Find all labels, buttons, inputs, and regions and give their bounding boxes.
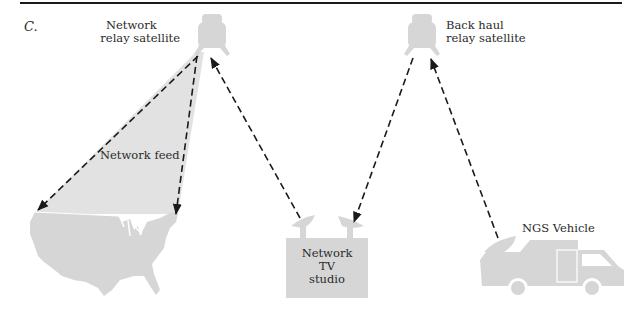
network-relay-satellite-icon [194, 14, 230, 56]
panel-label: C. [24, 20, 38, 33]
link-vehicle-to-backhaul-satellite [431, 59, 498, 238]
backhaul-relay-satellite-icon [404, 14, 440, 56]
us-map-icon [30, 212, 178, 296]
backhaul-relay-satellite-label-line2: relay satellite [446, 32, 526, 45]
ngs-vehicle-icon [480, 236, 624, 298]
link-backhaul-satellite-to-studio [354, 58, 413, 222]
backhaul-relay-satellite-label: Back haul relay satellite [446, 19, 526, 45]
network-relay-satellite-label: Network relay satellite [100, 19, 180, 45]
studio-label-line3: studio [286, 273, 368, 286]
network-relay-satellite-label-line2: relay satellite [100, 32, 180, 45]
diagram: C. Network relay satellite Back haul rel… [0, 0, 642, 312]
network-feed-label: Network feed [100, 149, 180, 162]
network-tv-studio-label: Network TV studio [286, 247, 368, 286]
ngs-vehicle-label: NGS Vehicle [522, 222, 595, 235]
link-studio-to-network-satellite [211, 58, 300, 218]
